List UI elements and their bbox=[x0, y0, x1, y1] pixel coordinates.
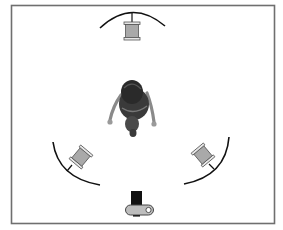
camera-lens bbox=[131, 191, 142, 206]
lighting-diagram bbox=[0, 0, 283, 230]
camera-viewfinder bbox=[146, 207, 151, 212]
light-head-icon bbox=[124, 22, 140, 40]
